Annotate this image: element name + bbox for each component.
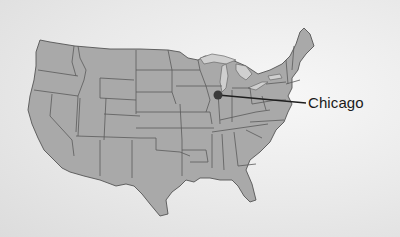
- lake-superior: [200, 54, 236, 64]
- chicago-label: Chicago: [308, 94, 364, 111]
- chicago-marker[interactable]: [214, 91, 223, 100]
- us-map: [0, 0, 400, 237]
- us-landmass: [28, 28, 314, 216]
